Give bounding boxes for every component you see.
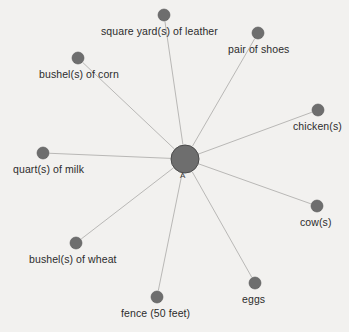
node-label-hub: A — [180, 172, 185, 180]
node-label-milk: quart(s) of milk — [13, 164, 84, 176]
node-label-eggs: eggs — [242, 294, 265, 306]
edge-hub-to-milk — [49, 153, 170, 158]
edge-hub-to-leather — [165, 21, 183, 144]
node-label-shoes: pair of shoes — [228, 44, 289, 56]
node-label-wheat: bushel(s) of wheat — [29, 254, 117, 266]
node-eggs[interactable] — [249, 277, 261, 289]
node-fence[interactable] — [151, 291, 163, 303]
node-milk[interactable] — [37, 147, 49, 159]
node-shoes[interactable] — [252, 27, 264, 39]
node-label-cow: cow(s) — [300, 217, 332, 229]
edge-hub-to-chicken — [199, 112, 312, 154]
node-cow[interactable] — [311, 200, 323, 212]
node-hub[interactable] — [171, 145, 199, 173]
edge-hub-to-eggs — [192, 172, 252, 278]
node-wheat[interactable] — [70, 237, 82, 249]
edge-hub-to-fence — [158, 173, 182, 290]
node-chicken[interactable] — [312, 104, 324, 116]
node-corn[interactable] — [72, 52, 84, 64]
node-label-leather: square yard(s) of leather — [101, 26, 218, 38]
radial-network-diagram: square yard(s) of leatherpair of shoesch… — [0, 0, 349, 332]
node-label-fence: fence (50 feet) — [121, 308, 190, 320]
edge-hub-to-cow — [199, 164, 311, 204]
node-label-chicken: chicken(s) — [293, 121, 342, 133]
node-label-corn: bushel(s) of corn — [39, 69, 119, 81]
edge-hub-to-wheat — [81, 168, 173, 239]
node-leather[interactable] — [158, 9, 170, 21]
